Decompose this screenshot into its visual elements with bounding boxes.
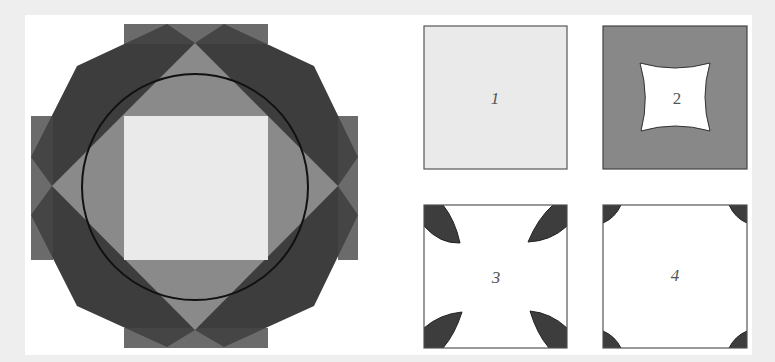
panel-3-label: 3 [491, 268, 501, 287]
panel-4: 4 [603, 205, 747, 348]
panel-2-label: 2 [673, 89, 682, 108]
panel-1-label: 1 [491, 89, 500, 108]
panel-1: 1 [424, 26, 567, 169]
figure-svg: 1 2 3 4 [0, 0, 775, 362]
panel-3: 3 [424, 205, 567, 348]
panel-2: 2 [603, 26, 747, 169]
main-diagram [31, 24, 358, 348]
inner-square [124, 116, 268, 260]
panel-4-label: 4 [671, 266, 680, 285]
